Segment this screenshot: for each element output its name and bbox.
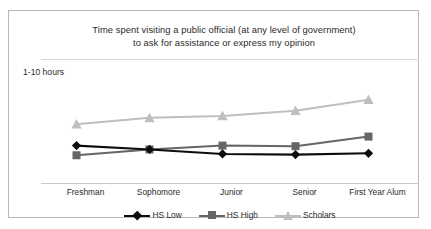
chart-legend: HS LowHS HighScholars [41,207,419,223]
plot-area [41,63,419,183]
x-axis-tick-label: Freshman [67,187,105,197]
x-axis-tick-label: Sophomore [137,187,180,197]
triangle-marker-icon [275,210,301,221]
chart-title: Time spent visiting a public official (a… [29,23,419,49]
legend-label: Scholars [303,210,336,220]
legend-item-scholars[interactable]: Scholars [275,210,336,221]
legend-item-hs-low[interactable]: HS Low [124,210,181,221]
x-axis-tick-labels: FreshmanSophomoreJuniorSeniorFirst Year … [41,187,419,201]
chart-title-line-1: Time spent visiting a public official (a… [29,23,419,36]
x-axis-tick-label: Senior [292,187,316,197]
chart-title-line-2: to ask for assistance or express my opin… [29,36,419,49]
legend-item-hs-high[interactable]: HS High [199,210,258,221]
x-axis-tick-label: First Year Alum [349,187,405,197]
legend-label: HS Low [152,210,181,220]
title-divider [41,59,419,60]
x-axis-line [41,183,419,184]
square-marker-icon [199,210,225,221]
diamond-marker-icon [124,210,150,221]
x-axis-tick-label: Junior [220,187,243,197]
legend-label: HS High [227,210,258,220]
chart-container: Time spent visiting a public official (a… [8,10,419,218]
